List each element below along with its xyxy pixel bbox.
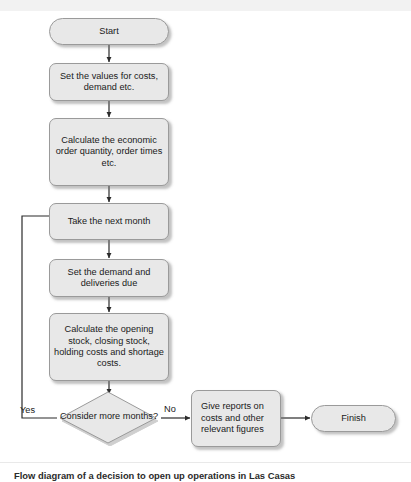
node-next-month-label: Take the next month bbox=[68, 216, 151, 227]
node-start[interactable]: Start bbox=[49, 18, 169, 45]
node-next-month[interactable]: Take the next month bbox=[49, 203, 169, 240]
node-set-values-label: Set the values for costs, demand etc. bbox=[54, 71, 164, 94]
node-finish-label: Finish bbox=[341, 413, 366, 424]
node-decision-label: Consider more months? bbox=[60, 411, 158, 422]
node-calc-stock[interactable]: Calculate the opening stock, closing sto… bbox=[49, 313, 169, 381]
node-finish[interactable]: Finish bbox=[311, 405, 396, 432]
node-decision-label-wrap: Consider more months? bbox=[57, 391, 161, 443]
node-reports-label: Give reports on costs and other relevant… bbox=[201, 401, 276, 435]
node-decision[interactable]: Consider more months? bbox=[57, 391, 161, 446]
edge-label-no: No bbox=[164, 404, 176, 415]
flowchart-diagram: Start Set the values for costs, demand e… bbox=[0, 0, 411, 460]
node-reports[interactable]: Give reports on costs and other relevant… bbox=[191, 390, 281, 447]
edge-label-yes: Yes bbox=[20, 405, 35, 416]
node-calc-eoq[interactable]: Calculate the economic order quantity, o… bbox=[49, 118, 169, 186]
caption-divider bbox=[0, 462, 411, 463]
figure-caption: Flow diagram of a decision to open up op… bbox=[14, 470, 404, 482]
node-set-demand[interactable]: Set the demand and deliveries due bbox=[49, 259, 169, 297]
node-start-label: Start bbox=[99, 26, 118, 37]
node-calc-eoq-label: Calculate the economic order quantity, o… bbox=[54, 135, 164, 169]
node-set-demand-label: Set the demand and deliveries due bbox=[54, 267, 164, 290]
node-set-values[interactable]: Set the values for costs, demand etc. bbox=[49, 63, 169, 101]
figure-page: Start Set the values for costs, demand e… bbox=[0, 0, 411, 482]
node-calc-stock-label: Calculate the opening stock, closing sto… bbox=[54, 324, 164, 370]
